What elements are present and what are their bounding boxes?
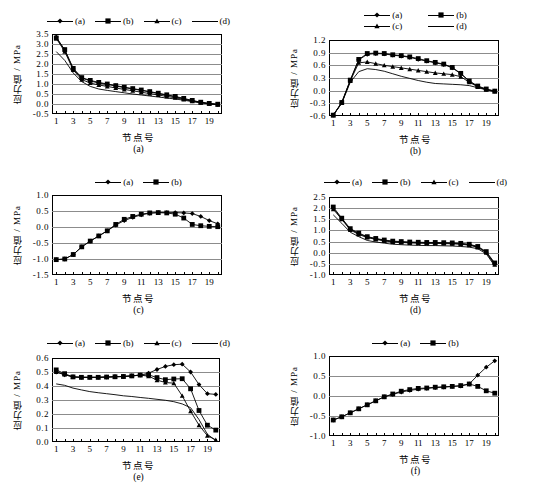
series-d-a bbox=[331, 206, 497, 267]
x-tick-label: 13 bbox=[431, 438, 440, 448]
plot-area-a: 3.53.02.52.01.51.00.50.0-0.5135791113151… bbox=[52, 34, 222, 114]
series-layer bbox=[329, 40, 499, 116]
legend-item-b-a[interactable]: (a) bbox=[364, 10, 402, 20]
x-tick-label: 11 bbox=[137, 116, 146, 126]
series-b-d bbox=[331, 66, 497, 117]
x-tick-label: 15 bbox=[448, 277, 457, 287]
legend-label: (a) bbox=[392, 10, 402, 20]
y-tick-label: -1.5 bbox=[33, 270, 49, 280]
legend-label: (b) bbox=[123, 16, 134, 26]
diamond-marker bbox=[364, 15, 390, 16]
diamond-marker bbox=[95, 182, 121, 183]
x-axis-title-c: 节点号 bbox=[0, 291, 277, 305]
x-tick-label: 5 bbox=[88, 277, 93, 287]
diamond-marker bbox=[47, 21, 73, 22]
legend-item-f-a[interactable]: (a) bbox=[372, 338, 410, 348]
x-tick-label: 3 bbox=[71, 277, 76, 287]
y-tick-label: -0.5 bbox=[33, 238, 49, 248]
panel-caption-a: (a) bbox=[0, 144, 277, 154]
legend-label: (b) bbox=[171, 177, 182, 187]
legend-label: (d) bbox=[497, 177, 508, 187]
legend-label: (a) bbox=[75, 338, 85, 348]
x-tick-label: 3 bbox=[348, 277, 353, 287]
x-tick-label: 3 bbox=[71, 444, 76, 454]
y-tick-label: -1.0 bbox=[310, 431, 326, 441]
legend-label: (a) bbox=[75, 16, 85, 26]
legend-item-e-a[interactable]: (a) bbox=[47, 338, 85, 348]
y-tick-label: 2.0 bbox=[36, 59, 49, 69]
legend-label: (b) bbox=[123, 338, 134, 348]
chart-panel-f: (a)(b)1.00.50.0-0.5-1.0135791113151719应力… bbox=[277, 322, 554, 484]
legend-item-e-c[interactable]: (c) bbox=[144, 338, 182, 348]
legend-item-b-c[interactable]: (c) bbox=[364, 21, 402, 31]
legend-item-d-c[interactable]: (c) bbox=[421, 177, 459, 187]
legend-item-a-d[interactable]: (d) bbox=[192, 16, 231, 26]
x-tick-label: 3 bbox=[71, 116, 76, 126]
legend-label: (b) bbox=[448, 338, 459, 348]
legend-item-a-b[interactable]: (b) bbox=[95, 16, 134, 26]
legend-item-c-a[interactable]: (a) bbox=[95, 177, 133, 187]
series-c-b bbox=[54, 210, 220, 262]
y-tick-label: 1.5 bbox=[313, 214, 326, 224]
legend-item-b-b[interactable]: (b) bbox=[428, 10, 467, 20]
y-tick-label: -0.3 bbox=[310, 98, 326, 108]
x-axis-title-b: 节点号 bbox=[277, 132, 554, 146]
legend-item-a-a[interactable]: (a) bbox=[47, 16, 85, 26]
y-tick-label: 0.0 bbox=[36, 437, 49, 447]
legend-label: (c) bbox=[392, 21, 402, 31]
panel-caption-f: (f) bbox=[277, 466, 554, 476]
y-tick-label: 1.5 bbox=[36, 69, 49, 79]
plot-area-d: 2.52.01.51.00.50.0-0.5-1.013579111315171… bbox=[329, 197, 499, 275]
legend-item-d-b[interactable]: (b) bbox=[372, 177, 411, 187]
y-tick-label: 2.5 bbox=[313, 192, 326, 202]
legend-label: (b) bbox=[456, 10, 467, 20]
y-tick-label: 0.2 bbox=[36, 409, 49, 419]
series-e-a bbox=[54, 362, 218, 397]
series-e-c bbox=[54, 370, 218, 442]
legend-item-d-d[interactable]: (d) bbox=[469, 177, 508, 187]
x-tick-label: 19 bbox=[203, 444, 212, 454]
x-tick-label: 7 bbox=[382, 438, 387, 448]
legend-item-e-d[interactable]: (d) bbox=[192, 338, 231, 348]
cross-marker bbox=[469, 182, 495, 183]
x-axis-title-a: 节点号 bbox=[0, 130, 277, 144]
chart-legend-a: (a)(b)(c)(d) bbox=[0, 16, 277, 26]
square-marker bbox=[420, 343, 446, 344]
x-tick-label: 7 bbox=[105, 277, 110, 287]
y-tick-label: 0.5 bbox=[36, 206, 49, 216]
x-tick-label: 9 bbox=[399, 118, 404, 128]
x-tick-label: 9 bbox=[122, 116, 127, 126]
y-tick-label: 3.5 bbox=[36, 29, 49, 39]
diamond-marker bbox=[324, 182, 350, 183]
legend-item-d-a[interactable]: (a) bbox=[324, 177, 362, 187]
series-layer bbox=[329, 356, 499, 436]
y-tick-label: -0.5 bbox=[310, 259, 326, 269]
legend-item-a-c[interactable]: (c) bbox=[144, 16, 182, 26]
x-tick-label: 11 bbox=[137, 277, 146, 287]
x-tick-label: 3 bbox=[348, 438, 353, 448]
x-tick-label: 17 bbox=[465, 277, 474, 287]
y-tick-label: 3.0 bbox=[36, 39, 49, 49]
x-tick-label: 9 bbox=[399, 438, 404, 448]
series-a-d bbox=[54, 49, 220, 107]
legend-label: (d) bbox=[220, 338, 231, 348]
x-tick-label: 7 bbox=[382, 277, 387, 287]
diamond-marker bbox=[372, 343, 398, 344]
legend-item-f-b[interactable]: (b) bbox=[420, 338, 459, 348]
series-d-d bbox=[331, 212, 497, 268]
chart-panel-a: (a)(b)(c)(d)3.53.02.52.01.51.00.50.0-0.5… bbox=[0, 0, 277, 161]
y-tick-label: 0.3 bbox=[313, 73, 326, 83]
y-tick-label: -1.0 bbox=[33, 254, 49, 264]
square-marker bbox=[372, 182, 398, 183]
x-tick-label: 19 bbox=[205, 277, 214, 287]
legend-item-b-d[interactable]: (d) bbox=[428, 21, 467, 31]
legend-label: (c) bbox=[172, 338, 182, 348]
x-axis-title-f: 节点号 bbox=[277, 452, 554, 466]
legend-item-e-b[interactable]: (b) bbox=[95, 338, 134, 348]
y-tick-label: -1.0 bbox=[310, 270, 326, 280]
legend-item-c-b[interactable]: (b) bbox=[143, 177, 182, 187]
y-axis-title-e: 应力值 / MPa bbox=[10, 370, 23, 430]
panel-caption-d: (d) bbox=[277, 305, 554, 315]
series-a-c bbox=[54, 36, 220, 107]
y-tick-label: 0.0 bbox=[36, 222, 49, 232]
